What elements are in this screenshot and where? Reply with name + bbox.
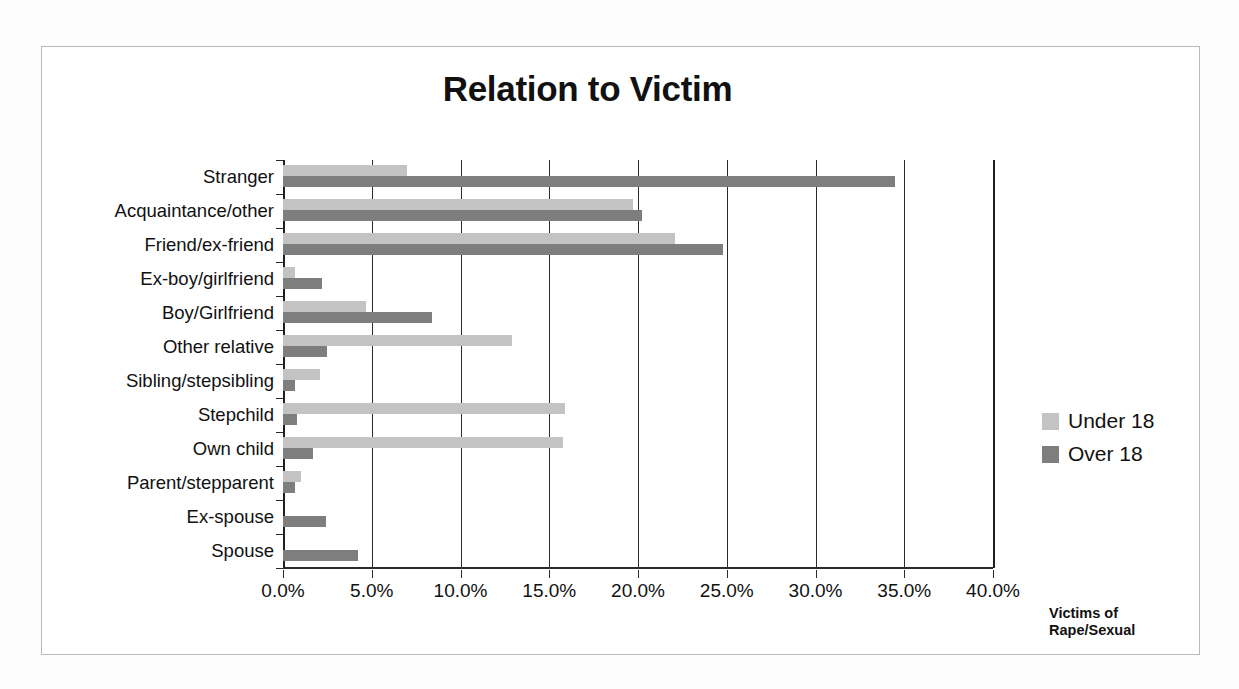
x-tick-label: 20.0% [611, 580, 665, 602]
bar-under-18 [283, 403, 565, 414]
legend-entry: Under 18 [1042, 409, 1154, 433]
bar-group [283, 432, 993, 466]
x-tick-label: 40.0% [966, 580, 1020, 602]
bar-over-18 [283, 516, 326, 527]
bar-over-18 [283, 346, 327, 357]
legend-swatch-icon [1042, 413, 1059, 430]
x-tick-label: 5.0% [350, 580, 393, 602]
bar-group [283, 262, 993, 296]
x-tick-mark [283, 570, 284, 578]
bar-over-18 [283, 414, 297, 425]
bar-over-18 [283, 448, 313, 459]
bar-under-18 [283, 233, 675, 244]
legend-swatch-icon [1042, 446, 1059, 463]
category-tick-mark [276, 432, 283, 433]
bar-group [283, 330, 993, 364]
category-label: Other relative [163, 338, 274, 357]
bar-group [283, 160, 993, 194]
bar-over-18 [283, 210, 642, 221]
bar-over-18 [283, 244, 723, 255]
x-tick-mark [638, 570, 639, 578]
x-tick-label: 35.0% [877, 580, 931, 602]
chart-title: Relation to Victim [42, 69, 1199, 109]
x-tick-mark [993, 570, 994, 578]
category-label: Ex-spouse [187, 508, 274, 527]
bar-group [283, 194, 993, 228]
bar-over-18 [283, 176, 895, 187]
category-label: Boy/Girlfriend [162, 304, 274, 323]
chart-frame: Relation to Victim StrangerAcquaintance/… [41, 46, 1200, 655]
legend-entry: Over 18 [1042, 442, 1154, 466]
bar-under-18 [283, 267, 295, 278]
x-tick-mark [816, 570, 817, 578]
bar-over-18 [283, 482, 295, 493]
legend-label: Under 18 [1068, 409, 1154, 433]
x-tick-mark [461, 570, 462, 578]
category-axis-labels: StrangerAcquaintance/otherFriend/ex-frie… [42, 160, 274, 568]
category-label: Acquaintance/other [115, 202, 274, 221]
bar-group [283, 296, 993, 330]
category-tick-mark [276, 534, 283, 535]
category-label: Stepchild [198, 406, 274, 425]
bar-over-18 [283, 550, 358, 561]
category-label: Ex-boy/girlfriend [140, 270, 274, 289]
category-label: Parent/stepparent [127, 474, 274, 493]
bar-group [283, 398, 993, 432]
legend-label: Over 18 [1068, 442, 1143, 466]
x-tick-label: 15.0% [522, 580, 576, 602]
x-axis-tick-labels: 0.0%5.0%10.0%15.0%20.0%25.0%30.0%35.0%40… [283, 580, 993, 610]
category-tick-mark [276, 330, 283, 331]
bar-under-18 [283, 301, 366, 312]
x-tick-label: 10.0% [434, 580, 488, 602]
value-axis-title: Victims ofRape/Sexual [1049, 605, 1189, 639]
category-tick-mark [276, 296, 283, 297]
category-label: Own child [193, 440, 274, 459]
value-axis-title-line: Victims of [1049, 605, 1189, 622]
category-tick-mark [276, 568, 283, 569]
scan-page-background: Relation to Victim StrangerAcquaintance/… [0, 0, 1239, 689]
x-tick-label: 25.0% [700, 580, 754, 602]
category-tick-mark [276, 466, 283, 467]
bar-under-18 [283, 165, 407, 176]
bar-group [283, 534, 993, 568]
bar-under-18 [283, 437, 563, 448]
bar-over-18 [283, 278, 322, 289]
category-label: Sibling/stepsibling [126, 372, 274, 391]
bar-over-18 [283, 380, 295, 391]
bar-over-18 [283, 312, 432, 323]
value-axis-title-line: Rape/Sexual [1049, 622, 1189, 639]
x-tick-mark [727, 570, 728, 578]
x-tick-label: 30.0% [789, 580, 843, 602]
bar-group [283, 364, 993, 398]
bar-under-18 [283, 199, 633, 210]
category-tick-mark [276, 364, 283, 365]
category-tick-mark [276, 228, 283, 229]
category-tick-mark [276, 262, 283, 263]
category-label: Stranger [203, 168, 274, 187]
chart-title-text: Relation to Victim [443, 69, 733, 109]
bar-under-18 [283, 335, 512, 346]
category-tick-mark [276, 500, 283, 501]
x-tick-mark [372, 570, 373, 578]
bar-group [283, 228, 993, 262]
category-tick-mark [276, 194, 283, 195]
gridline [993, 160, 995, 568]
x-tick-mark [549, 570, 550, 578]
x-tick-mark [904, 570, 905, 578]
plot-area [283, 160, 993, 568]
category-label: Friend/ex-friend [144, 236, 274, 255]
category-tick-mark [276, 398, 283, 399]
bar-under-18 [283, 369, 320, 380]
bar-under-18 [283, 471, 301, 482]
category-tick-mark [276, 160, 283, 161]
bar-group [283, 500, 993, 534]
chart-legend: Under 18Over 18 [1042, 409, 1154, 475]
bar-group [283, 466, 993, 500]
x-tick-label: 0.0% [261, 580, 304, 602]
category-label: Spouse [211, 542, 274, 561]
